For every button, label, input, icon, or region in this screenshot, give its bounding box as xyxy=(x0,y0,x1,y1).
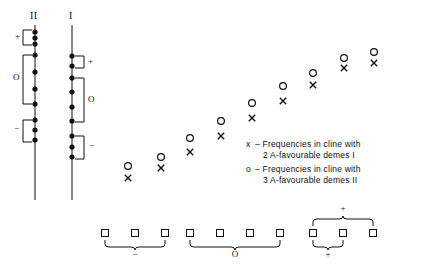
scatter-o-point-2 xyxy=(187,135,194,142)
deme-square-1-0 xyxy=(187,230,194,237)
axis-I-dot-0 xyxy=(69,53,74,58)
scatter-o-point-5 xyxy=(280,83,287,90)
deme-square-0-0 xyxy=(102,230,109,237)
axis-II-dot-1 xyxy=(32,35,37,40)
axis-I-bracket-2 xyxy=(75,136,84,159)
axis-II-dot-5 xyxy=(32,86,37,91)
deme-brace-2-0 xyxy=(313,216,373,226)
deme-row xyxy=(102,216,377,250)
scatter-x-point-1 xyxy=(158,165,164,171)
figure-vector-layer xyxy=(0,0,430,272)
scatter-o-point-8 xyxy=(371,49,378,56)
axis-II-dot-3 xyxy=(32,52,37,57)
deme-brace-0-0 xyxy=(105,240,165,250)
scatter-o-point-7 xyxy=(341,55,348,62)
scatter-x-point-2 xyxy=(187,149,193,155)
axis-II-dot-4 xyxy=(32,69,37,74)
deme-square-1-1 xyxy=(217,230,224,237)
scatter-x-point-5 xyxy=(280,98,286,104)
deme-square-2-2 xyxy=(370,230,377,237)
axis-I-dot-5 xyxy=(69,118,74,123)
scatter-x-point-7 xyxy=(341,65,347,71)
axis-II-bracket-1 xyxy=(23,55,32,104)
axis-I-bracket-1 xyxy=(75,78,84,122)
axis-I-dot-3 xyxy=(69,89,74,94)
axis-II-dot-8 xyxy=(32,127,37,132)
deme-brace-1-0 xyxy=(190,240,280,250)
deme-square-0-1 xyxy=(132,230,139,237)
axis-I-dot-4 xyxy=(69,104,74,109)
axis-II-dot-0 xyxy=(32,29,37,34)
axis-II-bracket-0 xyxy=(23,30,32,45)
deme-square-1-3 xyxy=(277,230,284,237)
axis-dots xyxy=(32,29,74,159)
scatter-o-point-3 xyxy=(218,118,225,125)
axis-I-dot-2 xyxy=(69,75,74,80)
deme-square-2-0 xyxy=(310,230,317,237)
scatter-o-point-1 xyxy=(158,154,165,161)
axis-I-dot-7 xyxy=(69,144,74,149)
deme-square-0-2 xyxy=(162,230,169,237)
scatter-o-point-4 xyxy=(249,100,256,107)
axis-I-bracket-0 xyxy=(75,56,84,68)
scatter-o-point-6 xyxy=(310,70,317,77)
deme-square-1-2 xyxy=(247,230,254,237)
axis-brackets xyxy=(23,30,84,159)
axis-II-dot-2 xyxy=(32,41,37,46)
axis-II-bracket-2 xyxy=(23,120,32,142)
axis-I-dot-8 xyxy=(69,154,74,159)
scatter-x-point-0 xyxy=(125,175,131,181)
scatter-o-point-0 xyxy=(125,163,132,170)
deme-brace-2-1 xyxy=(313,240,343,250)
scatter-x-point-3 xyxy=(218,133,224,139)
axis-I-dot-1 xyxy=(69,63,74,68)
figure-canvas: II I + O − + O − x– Frequencies in cline… xyxy=(0,0,430,272)
scatter-x-point-4 xyxy=(249,115,255,121)
deme-square-2-1 xyxy=(340,230,347,237)
axis-II-dot-6 xyxy=(32,101,37,106)
axis-I-dot-6 xyxy=(69,133,74,138)
scatter-x-point-8 xyxy=(371,60,377,66)
axis-II-dot-7 xyxy=(32,117,37,122)
scatter-points xyxy=(125,49,378,182)
axis-II-dot-9 xyxy=(32,137,37,142)
axis-lines xyxy=(35,25,72,200)
scatter-x-point-6 xyxy=(310,82,316,88)
